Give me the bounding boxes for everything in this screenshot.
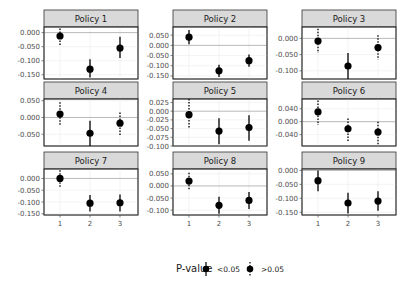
y-tick-label: 0.000 bbox=[149, 108, 169, 116]
facet-panel: Policy 40.0500.000-0.050 bbox=[17, 82, 138, 146]
y-tick-label: 0.000 bbox=[278, 167, 298, 175]
y-tick-label: 0.000 bbox=[20, 114, 40, 122]
facet-title: Policy 2 bbox=[204, 14, 237, 24]
facet-panel: Policy 20.0500.000-0.050-0.100-0.150 bbox=[146, 10, 267, 80]
y-tick-label: -0.150 bbox=[17, 210, 40, 218]
y-tick-label: 0.000 bbox=[278, 35, 298, 43]
y-tick-label: 0.040 bbox=[278, 105, 298, 113]
plot-area bbox=[302, 169, 396, 215]
y-tick-label: -0.100 bbox=[146, 207, 169, 215]
y-tick-label: -0.050 bbox=[146, 195, 169, 203]
x-tick-label: 1 bbox=[316, 220, 320, 228]
y-tick-label: -0.150 bbox=[17, 71, 40, 79]
x-tick-label: 2 bbox=[217, 220, 221, 228]
x-tick-label: 1 bbox=[58, 220, 62, 228]
y-tick-label: -0.050 bbox=[17, 43, 40, 51]
y-tick-label: 0.000 bbox=[278, 118, 298, 126]
facet-title: Policy 4 bbox=[75, 86, 108, 96]
y-tick-label: -0.100 bbox=[17, 57, 40, 65]
legend-label-not-significant: >0.05 bbox=[261, 265, 284, 274]
x-tick-label: 3 bbox=[376, 220, 380, 228]
x-tick-label: 1 bbox=[187, 220, 191, 228]
faceted-coefficient-chart: Policy 10.000-0.050-0.100-0.150Policy 20… bbox=[0, 0, 408, 286]
legend-key-not-significant-icon bbox=[247, 262, 254, 276]
y-tick-label: 0.000 bbox=[149, 182, 169, 190]
y-tick-label: -0.100 bbox=[17, 199, 40, 207]
facet-panel: Policy 50.0250.000-0.025-0.050-0.075-0.1… bbox=[146, 82, 267, 151]
facet-panel: Policy 30.000-0.050-0.100 bbox=[275, 10, 396, 79]
y-tick-label: -0.025 bbox=[146, 116, 169, 124]
x-tick-label: 2 bbox=[88, 220, 92, 228]
y-tick-label: 0.025 bbox=[149, 99, 169, 107]
facet-title: Policy 1 bbox=[75, 14, 108, 24]
facet-title: Policy 5 bbox=[204, 86, 237, 96]
y-tick-label: 0.000 bbox=[20, 29, 40, 37]
y-tick-label: -0.050 bbox=[146, 125, 169, 133]
y-tick-label: -0.050 bbox=[17, 187, 40, 195]
y-tick-label: 0.050 bbox=[149, 170, 169, 178]
y-tick-label: -0.050 bbox=[146, 52, 169, 60]
y-tick-label: -0.040 bbox=[275, 131, 298, 139]
y-tick-label: -0.150 bbox=[146, 72, 169, 80]
y-tick-label: 0.000 bbox=[20, 175, 40, 183]
y-tick-label: 0.000 bbox=[149, 42, 169, 50]
x-tick-label: 3 bbox=[118, 220, 122, 228]
plot-area bbox=[44, 99, 138, 146]
facet-title: Policy 8 bbox=[204, 156, 237, 166]
y-tick-label: 0.050 bbox=[20, 97, 40, 105]
x-tick-label: 2 bbox=[346, 220, 350, 228]
facet-panel: Policy 70.000-0.050-0.100-0.150123 bbox=[17, 152, 138, 228]
facet-panel: Policy 90.000-0.050-0.100-0.150123 bbox=[275, 152, 396, 228]
y-tick-label: -0.100 bbox=[146, 62, 169, 70]
y-tick-label: -0.100 bbox=[275, 195, 298, 203]
facet-panel: Policy 10.000-0.050-0.100-0.150 bbox=[17, 10, 138, 79]
y-tick-label: 0.050 bbox=[149, 32, 169, 40]
facet-title: Policy 6 bbox=[333, 86, 366, 96]
y-tick-label: -0.100 bbox=[146, 143, 169, 151]
facet-panel: Policy 60.0400.000-0.040 bbox=[275, 82, 396, 146]
facet-panels: Policy 10.000-0.050-0.100-0.150Policy 20… bbox=[17, 10, 396, 228]
y-tick-label: -0.050 bbox=[17, 131, 40, 139]
facet-panel: Policy 80.0500.000-0.050-0.100123 bbox=[146, 152, 267, 228]
facet-title: Policy 9 bbox=[333, 156, 366, 166]
x-tick-label: 3 bbox=[247, 220, 251, 228]
legend-label-significant: <0.05 bbox=[217, 265, 240, 274]
y-tick-label: -0.050 bbox=[275, 181, 298, 189]
plot-area bbox=[173, 99, 267, 146]
plot-area bbox=[302, 99, 396, 146]
y-tick-label: -0.050 bbox=[275, 51, 298, 59]
y-tick-label: -0.150 bbox=[275, 209, 298, 217]
facet-title: Policy 3 bbox=[333, 14, 366, 24]
y-tick-label: -0.075 bbox=[146, 134, 169, 142]
facet-title: Policy 7 bbox=[75, 156, 108, 166]
legend: P-value <0.05 >0.05 bbox=[176, 262, 284, 276]
plot-area bbox=[302, 27, 396, 79]
y-tick-label: -0.100 bbox=[275, 67, 298, 75]
